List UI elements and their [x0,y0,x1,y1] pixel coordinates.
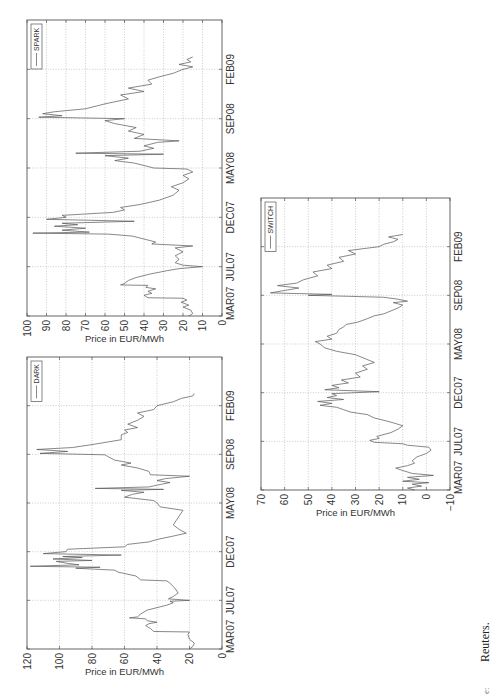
ytick-label: 40 [152,653,163,665]
ytick-label: 100 [54,653,65,670]
legend: DARK [31,361,42,401]
ytick-label: 50 [303,494,314,506]
ytick-label: 60 [119,653,130,665]
ytick-label: 40 [139,320,150,332]
legend-label: SWITCH [267,206,274,234]
caption-source: Reuters. [478,622,492,662]
series-line-spark [33,57,203,316]
chart-switch: −10010203040506070MAR07JUL07DEC07MAY08SE… [256,198,465,518]
chart-dark: 020406080100120MAR07JUL07DEC07MAY08SEP08… [22,357,237,677]
ytick-label: 30 [350,494,361,506]
ytick-label: 20 [374,494,385,506]
y-axis-title: Price in EUR/MWh [85,333,164,344]
ytick-label: 120 [22,653,33,670]
ytick-label: 10 [397,494,408,506]
series-line-dark [30,394,194,650]
ytick-label: 0 [421,494,432,500]
ytick-label: 100 [22,320,33,337]
xtick-label: MAY08 [453,328,464,360]
xtick-label: JUL07 [225,585,236,614]
ytick-label: 80 [61,320,72,332]
caption-partial: e: [481,688,491,695]
xtick-label: MAR07 [453,460,464,494]
ytick-label: 20 [178,320,189,332]
xtick-label: FEB09 [225,390,236,421]
series-line-switch [270,235,433,491]
ytick-label: 20 [184,653,195,665]
ytick-label: 60 [100,320,111,332]
xtick-label: DEC07 [225,201,236,234]
y-axis-title: Price in EUR/MWh [85,666,164,677]
legend: SPARK [31,24,42,69]
xtick-label: DEC07 [453,376,464,409]
xtick-label: MAR07 [225,619,236,653]
xtick-label: MAY08 [225,487,236,519]
xtick-label: MAY08 [225,152,236,184]
xtick-label: DEC07 [225,535,236,568]
xtick-label: JUL07 [453,426,464,455]
xtick-label: FEB09 [453,231,464,262]
xtick-label: FEB09 [225,54,236,85]
source-caption: Reuters. [478,622,492,662]
ytick-label: 40 [326,494,337,506]
ytick-label: 90 [41,320,52,332]
y-axis-title: Price in EUR/MWh [316,507,395,518]
ytick-label: 30 [158,320,169,332]
legend: SWITCH [265,202,276,252]
ytick-label: 70 [80,320,91,332]
source-caption-partial: e: [481,688,491,695]
xtick-label: JUL07 [225,252,236,281]
xtick-label: SEP08 [225,103,236,135]
legend-label: SPARK [33,27,40,51]
ytick-label: 70 [256,494,267,506]
legend-label: DARK [33,364,40,384]
xtick-label: SEP08 [453,279,464,311]
ytick-label: 10 [197,320,208,332]
xtick-label: SEP08 [225,438,236,470]
figure: 0102030405060708090100MAR07JUL07DEC07MAY… [0,0,493,698]
xtick-label: MAR07 [225,286,236,320]
ytick-label: 50 [119,320,130,332]
ytick-label: −10 [445,494,456,511]
ytick-label: 80 [87,653,98,665]
chart-spark: 0102030405060708090100MAR07JUL07DEC07MAY… [22,20,237,344]
ytick-label: 60 [279,494,290,506]
